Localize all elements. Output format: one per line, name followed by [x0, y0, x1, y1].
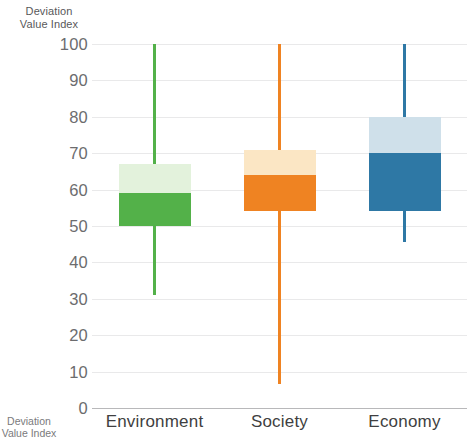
box-plot-chart: Deviation Value Index 100908070605040302… [0, 0, 475, 441]
whisker-line [278, 44, 281, 384]
plot-area [92, 44, 467, 408]
box-plot-series[interactable] [342, 44, 467, 408]
neighbor-label-line2: Value Index [0, 428, 58, 440]
y-axis-title-line2: Value Index [10, 18, 88, 31]
neighbor-chart-label-fragment: Deviation Value Index [0, 416, 58, 441]
y-axis-tick-label: 10 [36, 362, 88, 381]
box-lower-quartile [119, 193, 191, 226]
x-axis-category-label: Society [217, 412, 342, 432]
y-axis-tick-labels: 1009080706050403020100 [28, 44, 88, 408]
y-axis-tick-label: 70 [36, 144, 88, 163]
y-axis-title: Deviation Value Index [10, 5, 88, 30]
box-lower-quartile [369, 153, 441, 211]
x-axis-category-label: Economy [342, 412, 467, 432]
gridline [92, 408, 467, 409]
y-axis-tick-label: 0 [36, 399, 88, 418]
y-axis-tick-label: 50 [36, 217, 88, 236]
box-upper-quartile [119, 164, 191, 193]
y-axis-tick-label: 20 [36, 326, 88, 345]
y-axis-tick-label: 60 [36, 180, 88, 199]
box-upper-quartile [369, 117, 441, 153]
y-axis-tick-label: 80 [36, 107, 88, 126]
neighbor-label-line1: Deviation [0, 416, 58, 428]
y-axis-title-line1: Deviation [10, 5, 88, 18]
box[interactable] [119, 164, 191, 226]
y-axis-tick-label: 90 [36, 71, 88, 90]
y-axis-tick-label: 100 [36, 35, 88, 54]
box[interactable] [244, 150, 316, 212]
box-plot-series[interactable] [217, 44, 342, 408]
box[interactable] [369, 117, 441, 212]
box-upper-quartile [244, 150, 316, 175]
box-plot-series[interactable] [92, 44, 217, 408]
y-axis-tick-label: 40 [36, 253, 88, 272]
x-axis-category-label: Environment [92, 412, 217, 432]
box-lower-quartile [244, 175, 316, 211]
x-axis-category-labels: EnvironmentSocietyEconomy [92, 412, 467, 438]
y-axis-tick-label: 30 [36, 289, 88, 308]
